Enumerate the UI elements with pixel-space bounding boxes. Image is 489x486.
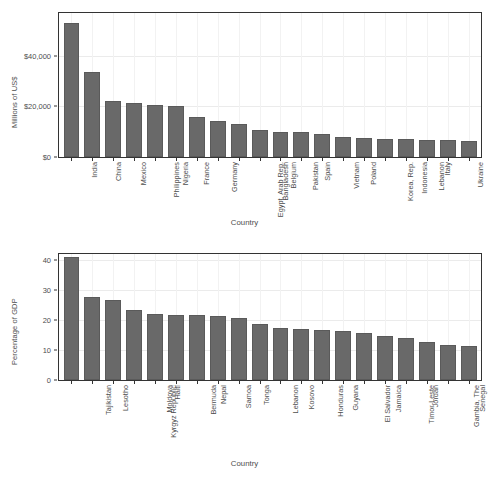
y-tick-mark [54,55,57,56]
y-tick-mark [54,106,57,107]
x-tick-label: El Salvador [383,385,392,422]
bar [252,130,268,157]
bar-cell [207,254,228,380]
bar [273,132,289,157]
x-tick-label: Jamaica [394,385,403,412]
x-tick-mark [176,381,177,384]
x-tick-label: Indonesia [420,162,429,194]
grid-line [59,380,481,381]
bar [105,101,121,157]
bar-cell [396,254,417,380]
x-tick-label: Senegal [477,385,486,412]
y-tick-mark [54,290,57,291]
bar-cell [82,254,103,380]
x-tick-mark [448,158,449,161]
y-tick-mark [54,350,57,351]
bar-cell [145,13,166,157]
bar-cell [396,13,417,157]
x-tick-mark [469,158,470,161]
bar-cell [228,254,249,380]
figure-root: Millions of US$ IndiaChinaMexicoPhilippi… [0,0,489,486]
bar [84,297,100,380]
x-tick-label: China [114,162,123,181]
x-tick-mark [280,381,281,384]
y-axis-title: Percentage of GDP [10,298,19,365]
x-tick-mark [406,381,407,384]
x-tick-mark [134,381,135,384]
x-tick-mark [218,381,219,384]
x-tick-mark [364,381,365,384]
bar [210,316,226,380]
bar [314,134,330,157]
x-tick-mark [448,381,449,384]
y-tick-label: 30 [0,286,51,295]
bar [419,140,435,157]
bar [64,257,80,380]
x-tick-mark [364,158,365,161]
x-tick-label: Philippines [172,162,181,197]
bar [293,329,309,380]
bar-cell [333,254,354,380]
x-tick-label: Pakistan [311,162,320,190]
bar-cell [145,254,166,380]
bar [252,324,268,380]
bar-cell [228,13,249,157]
x-tick-mark [92,158,93,161]
x-tick-label: Haiti [173,385,182,400]
x-tick-label: Nigeria [181,162,190,185]
x-tick-label: Bangladesh [280,162,289,201]
y-tick-label: 20 [0,316,51,325]
x-tick-mark [427,381,428,384]
bar-cell [291,13,312,157]
y-tick-mark [54,380,57,381]
grid-line [59,157,481,158]
bar-cell [437,13,458,157]
x-tick-mark [218,158,219,161]
x-tick-mark [71,158,72,161]
x-tick-label: Poland [369,162,378,185]
x-tick-mark [71,381,72,384]
bar [398,139,414,157]
bar [314,330,330,380]
bar [398,338,414,380]
x-tick-mark [197,381,198,384]
bar [419,342,435,380]
bar-series [59,13,481,157]
x-tick-label: Nepal [219,385,228,404]
bar [273,328,289,380]
x-tick-label: India [90,162,99,178]
bar [377,336,393,380]
y-tick-label: 10 [0,346,51,355]
x-tick-mark [343,381,344,384]
x-tick-mark [385,158,386,161]
x-tick-label: Mexico [139,162,148,185]
x-tick-mark [239,381,240,384]
x-tick-label: Samoa [244,385,253,408]
x-tick-mark [301,158,302,161]
bar [293,132,309,157]
x-tick-mark [322,381,323,384]
y-tick-mark [54,157,57,158]
bar-cell [437,254,458,380]
bar [440,345,456,380]
bar-cell [270,254,291,380]
bar-cell [166,13,187,157]
x-tick-mark [280,158,281,161]
y-tick-label: $20,000 [0,102,51,111]
x-tick-mark [155,158,156,161]
bar [64,23,80,157]
x-tick-mark [385,381,386,384]
bar-cell [458,13,479,157]
x-tick-mark [113,158,114,161]
bar-cell [186,13,207,157]
bar [335,137,351,157]
x-tick-mark [155,381,156,384]
x-tick-mark [322,158,323,161]
x-tick-mark [343,158,344,161]
x-tick-mark [239,158,240,161]
x-tick-label: Tonga [262,385,271,405]
bar-cell [207,13,228,157]
bar [377,139,393,157]
x-tick-label: Vietnam [352,162,361,189]
y-tick-mark [54,260,57,261]
